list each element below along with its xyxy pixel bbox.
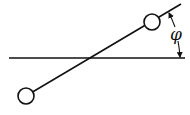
pendulum-angle-diagram: φ bbox=[0, 0, 190, 115]
upper-right-mass bbox=[144, 14, 160, 30]
angle-phi-label: φ bbox=[170, 24, 182, 44]
lower-left-mass bbox=[18, 88, 34, 104]
